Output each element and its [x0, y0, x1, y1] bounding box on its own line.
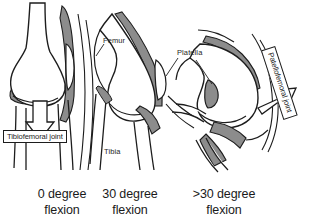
caption-30-degree-line2: flexion: [84, 202, 176, 218]
caption-over-30-degree: >30 degree flexion: [174, 186, 274, 218]
patella-30: [155, 60, 166, 100]
caption-30-degree-line1: 30 degree: [102, 187, 157, 201]
knee-flexion-figure: Femur Platella Tibia Tibiofemoral joint …: [0, 0, 328, 221]
platella-leader-left: [166, 58, 178, 76]
panel-0-degree-drawing: [10, 3, 93, 170]
caption-30-degree: 30 degree flexion: [84, 186, 176, 218]
caption-over-30-degree-line1: >30 degree: [193, 187, 256, 201]
caption-0-degree-line1: 0 degree: [38, 187, 87, 201]
label-platella: Platella: [177, 48, 202, 57]
label-tibia: Tibia: [104, 147, 120, 156]
label-femur: Femur: [103, 36, 125, 45]
femur-leader-line: [96, 44, 104, 56]
label-tibiofemoral-joint: Tibiofemoral joint: [3, 130, 67, 143]
femur-outline: [11, 3, 66, 106]
caption-over-30-degree-line2: flexion: [174, 202, 274, 218]
distal-strand: [246, 130, 268, 140]
